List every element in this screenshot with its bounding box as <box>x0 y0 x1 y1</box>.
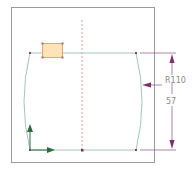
sketch-frame <box>12 8 155 163</box>
sketch-canvas[interactable]: R110 57 <box>0 0 196 171</box>
vertex-bottom-center[interactable] <box>81 149 84 152</box>
selected-rectangle[interactable] <box>43 44 63 58</box>
dimension-arrow-down-icon <box>170 140 175 149</box>
height-dimension-label[interactable]: 57 <box>166 97 176 106</box>
vertex-top-right[interactable] <box>135 52 137 54</box>
rect-corner[interactable] <box>62 43 64 45</box>
rect-corner[interactable] <box>62 57 64 59</box>
vertex-top-left[interactable] <box>29 52 31 54</box>
vertex-bottom-right[interactable] <box>135 149 137 151</box>
rect-corner[interactable] <box>42 57 44 59</box>
rect-corner[interactable] <box>42 43 44 45</box>
radius-dimension-label[interactable]: R110 <box>165 76 186 85</box>
dimension-arrow-up-icon <box>170 54 175 63</box>
